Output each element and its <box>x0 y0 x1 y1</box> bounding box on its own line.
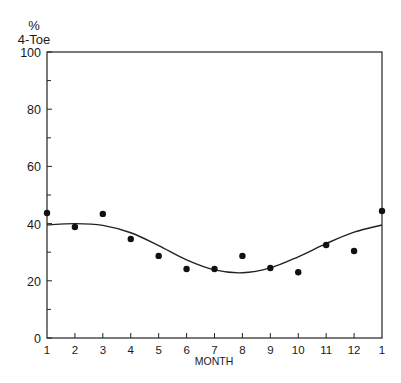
y-tick-label: 40 <box>27 218 41 232</box>
x-tick-label: 6 <box>183 344 189 356</box>
y-axis-label-unit: % <box>28 18 40 33</box>
plot-frame <box>47 52 382 338</box>
y-tick-label: 80 <box>27 103 41 117</box>
x-tick-label: 3 <box>100 344 106 356</box>
x-tick-label: 11 <box>320 344 332 356</box>
x-axis-ticks: 1234567891011121 <box>44 333 385 356</box>
x-tick-label: 4 <box>128 344 135 356</box>
data-point <box>44 210 50 216</box>
chart: % 4-Toe 020406080100 1234567891011121 MO… <box>0 0 401 383</box>
y-tick-label: 20 <box>27 275 41 289</box>
data-points <box>44 208 385 276</box>
x-tick-label: 1 <box>44 344 50 356</box>
x-tick-label: 1 <box>379 344 385 356</box>
data-point <box>100 211 106 217</box>
y-tick-label: 100 <box>20 46 41 60</box>
data-point <box>183 266 189 272</box>
data-point <box>379 208 385 214</box>
y-tick-label: 0 <box>34 332 41 346</box>
x-tick-label: 5 <box>155 344 161 356</box>
data-point <box>239 253 245 259</box>
y-axis-label: 4-Toe <box>18 32 51 47</box>
y-tick-label: 60 <box>27 160 41 174</box>
x-tick-label: 8 <box>239 344 245 356</box>
data-point <box>351 248 357 254</box>
x-tick-label: 12 <box>348 344 361 356</box>
data-point <box>211 266 217 272</box>
fitted-curve <box>47 224 382 273</box>
data-point <box>155 253 161 259</box>
data-point <box>128 236 134 242</box>
data-point <box>72 224 78 230</box>
x-axis-label: MONTH <box>195 355 234 367</box>
x-tick-label: 2 <box>72 344 78 356</box>
x-tick-label: 9 <box>267 344 273 356</box>
data-point <box>323 242 329 248</box>
data-point <box>295 269 301 275</box>
x-tick-label: 10 <box>292 344 305 356</box>
data-point <box>267 265 273 271</box>
